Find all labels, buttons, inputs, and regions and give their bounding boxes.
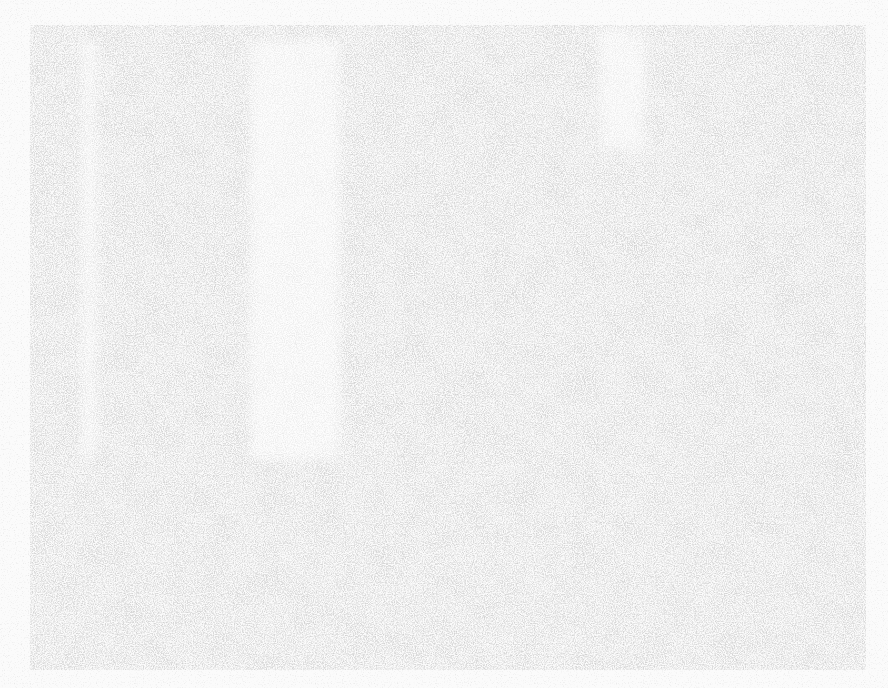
light-strip-center [250,40,340,460]
outer-panel [30,25,866,670]
light-strip-left [82,40,96,460]
light-zone-top-right [600,30,645,150]
